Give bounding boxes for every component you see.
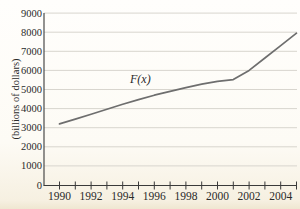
debt-curve [60, 33, 297, 124]
curve-label: F(x) [130, 72, 156, 86]
plot-canvas [0, 0, 300, 209]
y-tick-label-0: 0 [0, 180, 42, 191]
y-tick-label-9000: 9000 [0, 8, 42, 19]
x-tick-label-2004: 2004 [263, 190, 299, 202]
x-tick-label-1990: 1990 [42, 190, 78, 202]
x-tick-label-2002: 2002 [231, 190, 267, 202]
x-tick-label-1996: 1996 [136, 190, 172, 202]
y-axis-title: (billions of dollars) [9, 39, 23, 159]
x-tick-label-2000: 2000 [200, 190, 236, 202]
y-tick-label-8000: 8000 [0, 27, 42, 38]
x-tick-label-1992: 1992 [73, 190, 109, 202]
x-tick-label-1994: 1994 [105, 190, 141, 202]
x-tick-label-1998: 1998 [168, 190, 204, 202]
chart: U.S. National Debt 010002000300040005000… [0, 0, 300, 209]
y-tick-label-1000: 1000 [0, 160, 42, 171]
